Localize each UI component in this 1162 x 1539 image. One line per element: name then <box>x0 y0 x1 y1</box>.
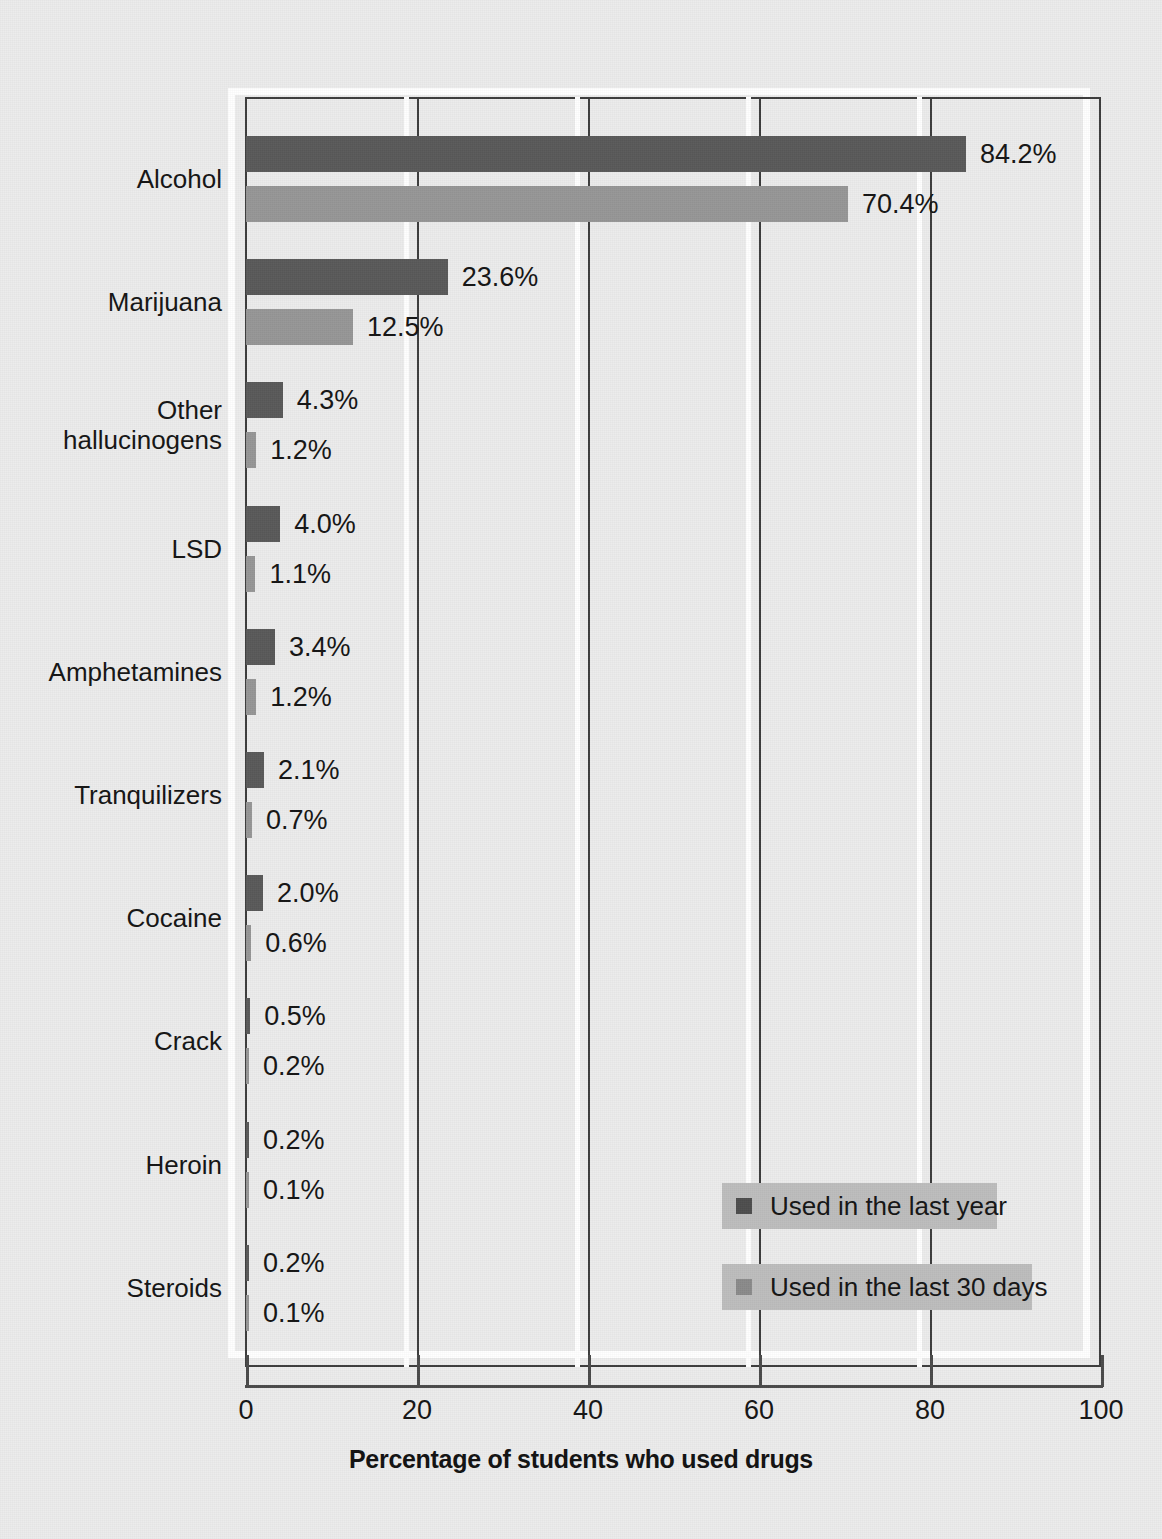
x-axis-tick <box>588 1355 591 1387</box>
category-label-tranquilizers: Tranquilizers <box>74 780 222 810</box>
bar-used-last-year <box>246 875 263 911</box>
x-axis-tick-label: 40 <box>548 1395 628 1426</box>
bar-value-label: 12.5% <box>367 309 444 345</box>
bar-used-last-year <box>246 1245 249 1281</box>
bar-value-label: 70.4% <box>862 186 939 222</box>
bar-value-label: 1.2% <box>270 432 332 468</box>
bar-value-label: 4.0% <box>294 506 356 542</box>
bar-value-label: 0.1% <box>263 1172 325 1208</box>
bar-used-last-30-days <box>246 556 255 592</box>
x-axis-tick <box>246 1355 249 1387</box>
x-axis-tick-label: 100 <box>1061 1395 1141 1426</box>
bar-used-last-30-days <box>246 1048 249 1084</box>
bar-value-label: 4.3% <box>297 382 359 418</box>
bar-value-label: 3.4% <box>289 629 351 665</box>
bar-used-last-year <box>246 629 275 665</box>
bar-value-label: 23.6% <box>462 259 539 295</box>
gridline-highlight <box>746 97 751 1367</box>
bar-used-last-30-days <box>246 679 256 715</box>
category-label-amphetamines: Amphetamines <box>49 657 222 687</box>
bar-used-last-30-days <box>246 802 252 838</box>
bar-used-last-30-days <box>246 1295 249 1331</box>
bar-used-last-30-days <box>246 309 353 345</box>
bar-used-last-year <box>246 382 283 418</box>
gridline-highlight <box>917 97 922 1367</box>
x-axis-tick <box>417 1355 420 1387</box>
legend-swatch-icon-30days <box>736 1279 752 1295</box>
category-label-alcohol: Alcohol <box>137 164 222 194</box>
bar-value-label: 0.2% <box>263 1245 325 1281</box>
bar-value-label: 0.2% <box>263 1122 325 1158</box>
category-label-marijuana: Marijuana <box>108 287 222 317</box>
x-axis-tick-label: 0 <box>206 1395 286 1426</box>
x-axis-tick <box>1101 1355 1104 1387</box>
gridline <box>588 97 590 1367</box>
bar-value-label: 2.0% <box>277 875 339 911</box>
gridline <box>759 97 761 1367</box>
bar-used-last-year <box>246 752 264 788</box>
category-label-lsd: LSD <box>171 534 222 564</box>
legend-label-30days: Used in the last 30 days <box>770 1272 1048 1303</box>
x-axis-tick-label: 60 <box>719 1395 799 1426</box>
bar-used-last-year <box>246 259 448 295</box>
gridline-highlight <box>575 97 580 1367</box>
bar-value-label: 84.2% <box>980 136 1057 172</box>
bar-used-last-year <box>246 1122 249 1158</box>
bar-used-last-year <box>246 506 280 542</box>
x-axis-tick <box>930 1355 933 1387</box>
x-axis-line <box>245 1385 1103 1388</box>
bar-value-label: 1.2% <box>270 679 332 715</box>
bar-used-last-30-days <box>246 186 848 222</box>
bar-used-last-30-days <box>246 925 251 961</box>
legend-item-used-last-year[interactable]: Used in the last year <box>722 1183 997 1229</box>
bar-used-last-30-days <box>246 1172 249 1208</box>
x-axis-title: Percentage of students who used drugs <box>0 1445 1162 1474</box>
bar-value-label: 1.1% <box>269 556 331 592</box>
bar-value-label: 0.6% <box>265 925 327 961</box>
x-axis-tick <box>759 1355 762 1387</box>
bar-used-last-year <box>246 998 250 1034</box>
bar-chart-figure: 84.2%70.4%23.6%12.5%4.3%1.2%4.0%1.1%3.4%… <box>0 0 1162 1539</box>
category-label-heroin: Heroin <box>145 1150 222 1180</box>
bar-value-label: 0.1% <box>263 1295 325 1331</box>
bar-value-label: 2.1% <box>278 752 340 788</box>
category-label-steroids: Steroids <box>127 1273 222 1303</box>
bar-value-label: 0.7% <box>266 802 328 838</box>
legend-swatch-icon-year <box>736 1198 752 1214</box>
category-label-crack: Crack <box>154 1026 222 1056</box>
legend-item-used-last-30-days[interactable]: Used in the last 30 days <box>722 1264 1032 1310</box>
bar-value-label: 0.5% <box>264 998 326 1034</box>
legend-label-year: Used in the last year <box>770 1191 1007 1222</box>
gridline <box>930 97 932 1367</box>
bar-used-last-year <box>246 136 966 172</box>
category-label-other-hallucinogens: Other hallucinogens <box>63 395 222 455</box>
bar-used-last-30-days <box>246 432 256 468</box>
x-axis-tick-label: 80 <box>890 1395 970 1426</box>
bar-value-label: 0.2% <box>263 1048 325 1084</box>
category-label-cocaine: Cocaine <box>127 903 222 933</box>
x-axis-tick-label: 20 <box>377 1395 457 1426</box>
